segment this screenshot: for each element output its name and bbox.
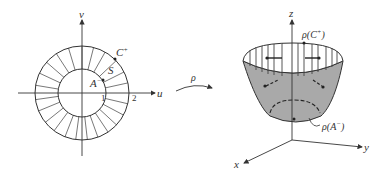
mapping-rho: ρ: [176, 72, 212, 91]
z-axis-label: z: [288, 7, 294, 19]
paraboloid-figure: z y x ρ(C+) ρ(A−): [233, 7, 369, 170]
x-axis-label: x: [233, 158, 239, 170]
y-axis-label: y: [363, 141, 369, 153]
v-axis-label: v: [79, 8, 84, 20]
c-plus-label: C+: [116, 46, 128, 58]
tick-label-1: 1: [101, 93, 106, 103]
x-axis: [244, 140, 292, 163]
region-s-label: S: [108, 64, 114, 76]
rho-a-minus-label: ρ(A−): [321, 120, 345, 133]
u-axis-label: u: [157, 87, 163, 99]
rho-c-plus-label: ρ(C+): [301, 28, 326, 41]
rho-label: ρ: [190, 72, 196, 83]
diagram-canvas: u v 1 2 C+ S A− ρ: [0, 0, 389, 179]
mapping-arrow: [176, 86, 212, 91]
a-minus-orientation-dot: [102, 79, 105, 82]
tick-label-2: 2: [132, 93, 137, 103]
y-axis: [292, 140, 362, 147]
a-minus-label: A−: [89, 77, 102, 89]
annulus-figure: u v 1 2 C+ S A−: [18, 8, 163, 156]
